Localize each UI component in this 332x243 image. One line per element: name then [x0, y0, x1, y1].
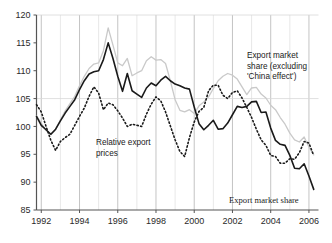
export-market-share-label-line-1: Export market share	[229, 195, 299, 205]
relative-export-prices-label-line-2: prices	[96, 149, 118, 158]
x-tick-label-2000: 2000	[184, 216, 204, 226]
y-tick-label-115: 115	[16, 38, 30, 48]
x-tick-label-2004: 2004	[261, 216, 281, 226]
x-tick-label-2006: 2006	[299, 216, 319, 226]
relative-export-prices-label-line-1: Relative export	[96, 138, 151, 147]
y-tick-label-110: 110	[16, 66, 30, 76]
y-tick-label-100: 100	[15, 122, 30, 132]
line-chart: 859095100105110115120 199219941996199820…	[0, 0, 332, 243]
y-tick-label-90: 90	[20, 177, 30, 187]
chart-container: 859095100105110115120 199219941996199820…	[0, 0, 332, 243]
y-tick-label-120: 120	[15, 10, 30, 20]
x-tick-label-1992: 1992	[31, 216, 51, 226]
x-tick-label-2002: 2002	[222, 216, 242, 226]
export-market-share-excluding-china-label-line-3: 'China effect')	[247, 72, 297, 81]
chart-background	[0, 0, 332, 243]
x-tick-label-1994: 1994	[70, 216, 90, 226]
x-tick-label-1998: 1998	[146, 216, 166, 226]
export-market-share-excluding-china-label-line-1: Export market	[247, 51, 299, 60]
x-tick-label-1996: 1996	[108, 216, 128, 226]
y-tick-label-105: 105	[15, 94, 30, 104]
export-market-share-excluding-china-label-line-2: share (excluding	[247, 62, 308, 71]
y-tick-label-85: 85	[20, 205, 30, 215]
export-market-share-label: Export market share	[229, 195, 299, 205]
y-tick-label-95: 95	[20, 149, 30, 159]
